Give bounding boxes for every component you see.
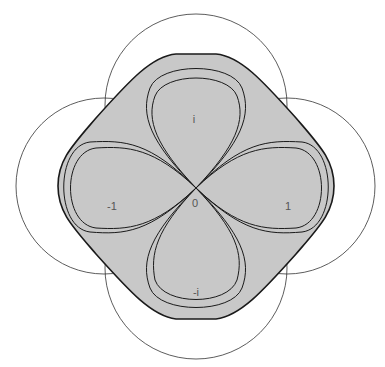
complex-plane-diagram: i -1 1 -i 0 (0, 0, 385, 367)
label-minus-one: -1 (107, 200, 117, 212)
label-minus-i: -i (193, 286, 199, 298)
label-zero: 0 (192, 197, 198, 209)
shaded-region (58, 54, 334, 319)
label-i: i (193, 113, 195, 125)
label-one: 1 (285, 200, 291, 212)
